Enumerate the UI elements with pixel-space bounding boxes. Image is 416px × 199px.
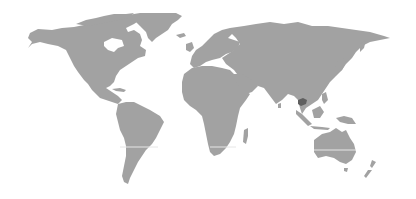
sri-lanka [278, 103, 281, 108]
south-america[interactable] [116, 102, 164, 184]
world-map [0, 0, 416, 199]
british-isles [186, 42, 194, 52]
madagascar [243, 128, 248, 144]
philippines [322, 92, 328, 104]
australia[interactable] [314, 128, 356, 164]
java [310, 126, 330, 130]
new-guinea [336, 116, 356, 124]
borneo [312, 106, 324, 118]
caribbean-islands [112, 88, 126, 92]
world-map-svg [0, 0, 416, 199]
tasmania [344, 168, 348, 172]
new-zealand[interactable] [364, 160, 376, 178]
iceland [176, 33, 186, 38]
north-america[interactable] [28, 14, 146, 104]
sumatra [296, 110, 312, 126]
